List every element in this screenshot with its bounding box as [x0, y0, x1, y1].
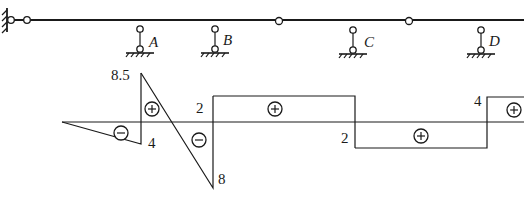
support-label: D — [488, 33, 500, 49]
hinge-icon — [24, 17, 31, 24]
value-label: 4 — [148, 135, 156, 151]
support-label: C — [364, 34, 375, 50]
support-label: B — [223, 32, 232, 48]
minus-sign-icon — [192, 133, 206, 147]
diagram-segment — [62, 73, 141, 144]
plus-sign-icon — [145, 102, 159, 116]
hinge-icon — [406, 18, 413, 25]
hinge-icon — [276, 18, 283, 25]
support-A: A — [126, 26, 159, 57]
hinge-icon — [8, 17, 15, 24]
plus-sign-icon — [268, 102, 282, 116]
plus-sign-icon — [507, 103, 521, 117]
support-label: A — [148, 34, 159, 50]
plus-sign-icon — [414, 129, 428, 143]
support-D: D — [467, 27, 500, 58]
value-label: 2 — [341, 130, 349, 146]
value-label: 4 — [474, 93, 482, 109]
support-C: C — [339, 27, 375, 58]
value-label: 8 — [218, 171, 226, 187]
shear-force-diagram: 8.5 4 2 8 2 4 — [62, 67, 524, 188]
fixed-wall-support — [2, 8, 7, 33]
structural-diagram: A B C D — [0, 0, 524, 207]
value-label: 8.5 — [111, 67, 130, 83]
diagram-segment — [141, 73, 213, 188]
minus-sign-icon — [114, 126, 128, 140]
value-label: 2 — [196, 100, 204, 116]
support-B: B — [201, 26, 232, 57]
